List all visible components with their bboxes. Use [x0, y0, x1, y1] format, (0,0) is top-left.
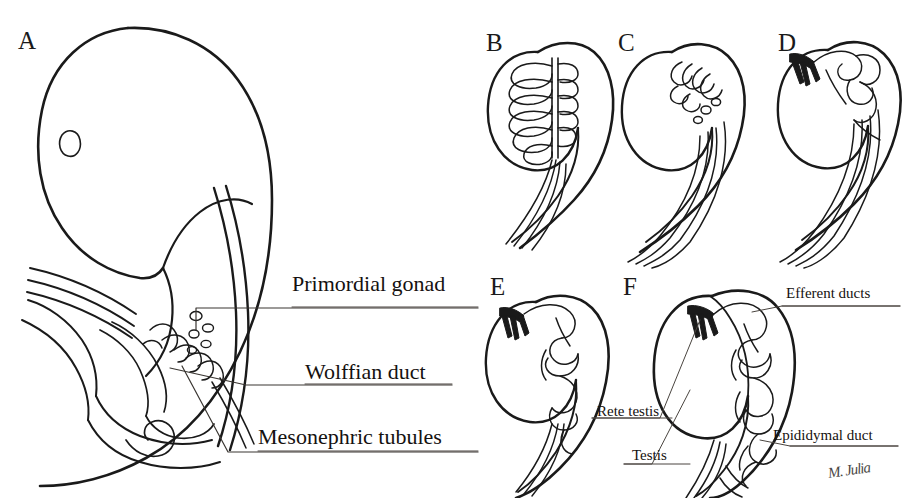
panel-letter-d: D: [778, 30, 796, 55]
panel-a-vesicles: [187, 312, 213, 354]
panel-c-art: [622, 44, 745, 268]
panel-letter-f: F: [623, 274, 637, 299]
panel-b-tubules: [509, 63, 578, 164]
panel-e-rete-testis: [500, 307, 529, 340]
anatomical-line-art: [0, 0, 902, 498]
panel-a-dorsal-line: [214, 186, 248, 450]
panel-c-tubules: [671, 62, 722, 123]
panel-d-duct-bundle: [780, 110, 880, 268]
label-efferent-ducts: Efferent ducts: [786, 285, 870, 302]
label-testis: Testis: [632, 447, 667, 464]
panel-a-eye: [60, 131, 81, 156]
panel-letter-b: B: [486, 30, 503, 55]
label-rete-testis: Rete testis: [597, 403, 659, 420]
panel-e-coiled-ducts: [524, 305, 578, 454]
panel-f-art: [654, 291, 795, 498]
panel-a-tail-strokes: [27, 268, 136, 338]
label-wolffian-duct: Wolffian duct: [305, 360, 426, 384]
panel-e-art: [486, 296, 609, 498]
panel-f-epididymal-coils: [714, 303, 776, 497]
panel-letter-a: A: [18, 28, 36, 53]
panel-d-art: [778, 42, 901, 268]
panel-a-mesonephros: [143, 324, 223, 388]
panel-b-art: [488, 43, 613, 250]
label-mesonephric-tubules: Mesonephric tubules: [258, 425, 442, 449]
panel-e-duct-bundle: [516, 424, 564, 496]
panel-d-rete-testis: [790, 53, 820, 86]
label-primordial-gonad: Primordial gonad: [292, 272, 445, 296]
panel-f-rete-testis: [688, 305, 718, 340]
panel-c-duct-bundle: [628, 122, 726, 268]
panel-a-abdomen: [22, 300, 220, 468]
panel-letter-c: C: [618, 30, 635, 55]
label-epididymal-duct: Epididymal duct: [773, 427, 873, 444]
panel-a-embryo: [38, 28, 272, 486]
panel-letter-e: E: [490, 274, 505, 299]
figure-panel-container: A B C D E F Primordial gonad Wolffian du…: [0, 0, 902, 498]
